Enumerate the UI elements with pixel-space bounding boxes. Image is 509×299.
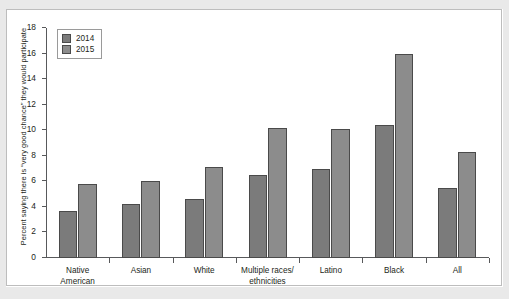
x-category-label-3: Multiple races/ethnicities <box>241 266 294 287</box>
x-category-label-5: Black <box>384 266 404 277</box>
y-tick-label-14: 14 <box>27 73 36 83</box>
y-tick-18: 18 <box>42 27 46 28</box>
y-tick-label-12: 12 <box>27 99 36 109</box>
bar-2015-0 <box>78 184 97 258</box>
x-tick-2 <box>173 258 174 263</box>
bar-2015-2 <box>205 167 224 258</box>
bar-2015-4 <box>331 129 350 258</box>
y-tick-4: 4 <box>42 206 46 207</box>
x-tick-1 <box>109 258 110 263</box>
y-tick-label-8: 8 <box>31 150 36 160</box>
legend-swatch-2015 <box>62 45 71 54</box>
bar-2015-3 <box>268 128 287 258</box>
y-tick-10: 10 <box>42 129 46 130</box>
x-category-label-line: All <box>453 266 462 277</box>
x-category-label-line: ethnicities <box>241 277 294 288</box>
bar-2014-3 <box>249 175 268 258</box>
legend-item-2015[interactable]: 2015 <box>62 44 94 55</box>
x-tick-5 <box>362 258 363 263</box>
y-tick-label-4: 4 <box>31 201 36 211</box>
legend-swatch-2014 <box>62 34 71 43</box>
bar-2014-2 <box>185 199 204 258</box>
bar-2014-5 <box>375 125 394 258</box>
legend-item-2014[interactable]: 2014 <box>62 33 94 44</box>
y-tick-16: 16 <box>42 53 46 54</box>
x-category-label-line: Multiple races/ <box>241 266 294 277</box>
bar-2014-4 <box>312 169 331 258</box>
y-tick-label-0: 0 <box>31 252 36 262</box>
x-tick-6 <box>426 258 427 263</box>
bar-2014-0 <box>59 211 78 258</box>
x-tick-3 <box>236 258 237 263</box>
y-tick-6: 6 <box>42 180 46 181</box>
x-category-label-line: Black <box>384 266 404 277</box>
x-tick-4 <box>299 258 300 263</box>
y-axis-line <box>46 28 47 258</box>
x-category-label-line: Latino <box>320 266 342 277</box>
bar-2015-5 <box>395 54 414 258</box>
y-tick-2: 2 <box>42 231 46 232</box>
bar-2015-1 <box>141 181 160 258</box>
x-category-label-line: White <box>194 266 215 277</box>
x-tick-7 <box>489 258 490 263</box>
x-category-label-4: Latino <box>320 266 342 277</box>
x-category-label-line: American <box>60 277 95 288</box>
x-category-label-6: All <box>453 266 462 277</box>
plot-area: 024681012141618 <box>46 28 489 258</box>
y-tick-label-2: 2 <box>31 226 36 236</box>
y-tick-8: 8 <box>42 155 46 156</box>
bar-2015-6 <box>458 152 477 258</box>
x-category-label-line: Native <box>60 266 95 277</box>
legend-label-2014: 2014 <box>76 34 94 43</box>
legend-label-2015: 2015 <box>76 45 94 54</box>
bar-2014-1 <box>122 204 141 258</box>
y-tick-0: 0 <box>42 257 46 258</box>
y-tick-label-18: 18 <box>27 22 36 32</box>
y-tick-label-16: 16 <box>27 48 36 58</box>
x-category-label-2: White <box>194 266 215 277</box>
y-tick-12: 12 <box>42 104 46 105</box>
y-tick-label-10: 10 <box>27 124 36 134</box>
chart-page: Percent saying there is “very good chanc… <box>0 0 509 299</box>
x-category-label-1: Asian <box>131 266 151 277</box>
y-tick-14: 14 <box>42 78 46 79</box>
x-category-label-line: Asian <box>131 266 151 277</box>
bar-2014-6 <box>438 188 457 258</box>
y-tick-label-6: 6 <box>31 175 36 185</box>
x-category-label-0: NativeAmerican <box>60 266 95 287</box>
chart-legend: 2014 2015 <box>57 29 102 59</box>
